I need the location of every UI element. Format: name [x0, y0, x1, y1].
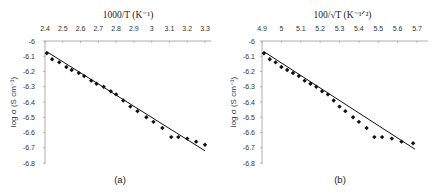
data-point — [144, 115, 148, 119]
y-tick-label: -6.3 — [23, 83, 35, 90]
data-point — [194, 139, 198, 143]
data-point — [50, 57, 54, 61]
x-tick-label: 3.3 — [200, 25, 210, 32]
data-point — [279, 65, 283, 69]
x-axis-title: 1000/T (K⁻¹) — [103, 10, 154, 21]
panel-label: (a) — [114, 174, 126, 185]
x-tick-label: 5.7 — [412, 25, 422, 32]
x-tick-label: 3.1 — [165, 25, 175, 32]
x-tick-label: 2.5 — [58, 25, 68, 32]
x-tick-label: 2.6 — [76, 25, 86, 32]
data-point — [351, 115, 355, 119]
data-point — [268, 57, 272, 61]
x-tick-label: 5.3 — [335, 25, 345, 32]
data-point — [77, 71, 81, 75]
x-tick-label: 2.7 — [93, 25, 103, 32]
data-point — [326, 92, 330, 96]
data-point — [151, 120, 155, 124]
x-tick-label: 2.4 — [40, 25, 50, 32]
data-point — [331, 98, 335, 102]
data-point — [364, 126, 368, 130]
y-tick-label: -6 — [249, 38, 255, 45]
chart-figure: 2.42.52.62.72.82.933.13.23.3-6-6.1-6.2-6… — [0, 0, 435, 196]
data-point — [357, 120, 361, 124]
y-tick-label: -6.1 — [23, 53, 35, 60]
data-point — [203, 143, 207, 147]
data-point — [169, 135, 173, 139]
x-tick-label: 5.4 — [354, 25, 364, 32]
data-point — [390, 136, 394, 140]
x-tick-label: 3 — [150, 25, 154, 32]
x-tick-label: 5.6 — [393, 25, 403, 32]
data-point — [314, 85, 318, 89]
data-point — [297, 74, 301, 78]
y-tick-label: -6 — [29, 38, 35, 45]
x-tick-label: 2.9 — [129, 25, 139, 32]
data-point — [411, 141, 415, 145]
y-tick-label: -6.2 — [243, 68, 255, 75]
x-tick-label: 3.2 — [182, 25, 192, 32]
y-tick-label: -6.5 — [23, 114, 35, 121]
y-tick-label: -6.8 — [243, 160, 255, 167]
y-tick-label: -6.4 — [243, 99, 255, 106]
x-tick-label: 5.1 — [296, 25, 306, 32]
y-tick-label: -6.5 — [243, 114, 255, 121]
data-point — [343, 109, 347, 113]
fit-line — [264, 52, 415, 150]
y-axis-title: log σ (S cm⁻¹) — [9, 77, 18, 128]
y-tick-label: -6.2 — [23, 68, 35, 75]
data-point — [337, 104, 341, 108]
data-point — [372, 135, 376, 139]
data-point — [160, 126, 164, 130]
y-tick-label: -6.7 — [243, 144, 255, 151]
data-point — [285, 68, 289, 72]
data-point — [380, 135, 384, 139]
x-tick-label: 5 — [279, 25, 283, 32]
x-tick-label: 5.5 — [373, 25, 383, 32]
fit-line — [47, 52, 205, 151]
x-axis-title: 100/√T (K⁻¹ᐟ²) — [314, 10, 372, 21]
y-tick-label: -6.1 — [243, 53, 255, 60]
y-tick-label: -6.3 — [243, 83, 255, 90]
x-tick-label: 2.8 — [111, 25, 121, 32]
x-tick-label: 4.9 — [257, 25, 267, 32]
chart-panel-b: 4.955.15.25.35.45.55.65.7-6-6.1-6.2-6.3-… — [229, 10, 428, 185]
y-tick-label: -6.8 — [23, 160, 35, 167]
y-tick-label: -6.6 — [23, 129, 35, 136]
y-tick-label: -6.4 — [23, 99, 35, 106]
y-axis-title: log σ (S cm⁻¹) — [229, 77, 238, 128]
y-tick-label: -6.7 — [23, 144, 35, 151]
data-point — [273, 60, 277, 64]
chart-panel-a: 2.42.52.62.72.82.933.13.23.3-6-6.1-6.2-6… — [9, 10, 211, 185]
panel-label: (b) — [334, 174, 346, 185]
y-tick-label: -6.6 — [243, 129, 255, 136]
x-tick-label: 5.2 — [315, 25, 325, 32]
